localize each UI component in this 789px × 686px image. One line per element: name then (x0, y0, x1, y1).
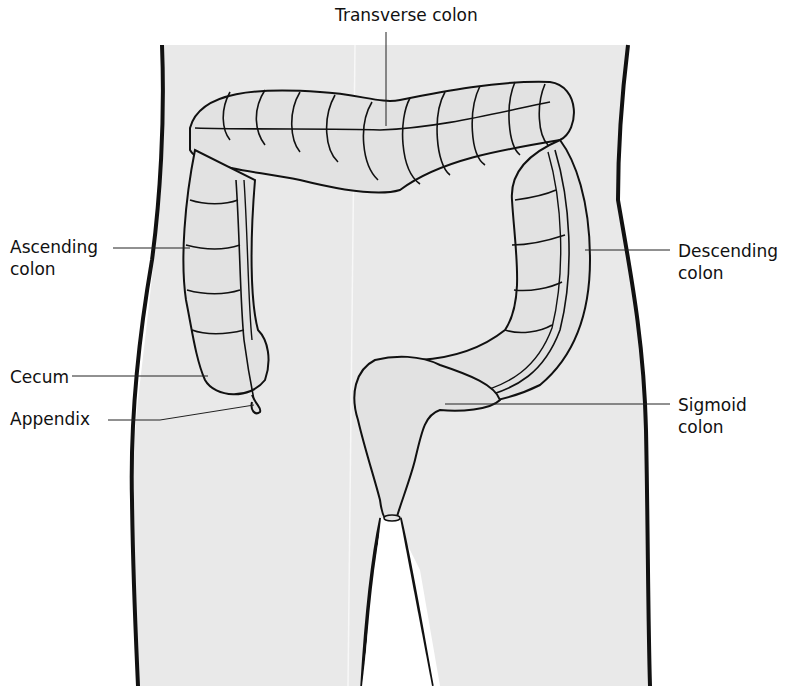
colon-anatomy-diagram: Transverse colon Ascending colon Descend… (0, 0, 789, 686)
label-appendix: Appendix (10, 408, 90, 430)
label-ascending-colon: Ascending colon (10, 236, 98, 280)
colon-illustration (0, 0, 789, 686)
label-transverse-colon: Transverse colon (335, 4, 478, 26)
label-sigmoid-colon: Sigmoid colon (678, 394, 747, 438)
label-descending-colon: Descending colon (678, 240, 778, 284)
label-cecum: Cecum (10, 366, 69, 388)
